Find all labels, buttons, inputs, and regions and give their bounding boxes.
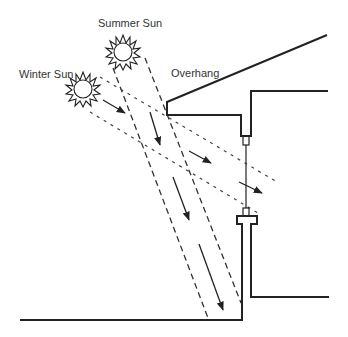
overhang-label: Overhang: [171, 67, 219, 79]
summer-arrow-1: [150, 112, 160, 145]
summer-sun-icon: [106, 35, 140, 70]
window-sill-block: [243, 208, 249, 216]
summer-ray-left: [113, 68, 208, 318]
summer-arrow-3: [199, 244, 223, 310]
window-head: [243, 136, 249, 145]
summer-arrow-2: [173, 177, 189, 220]
winter-arrow-2: [189, 151, 211, 163]
winter-sun-label: Winter Sun: [19, 68, 73, 80]
passive-solar-diagram: Summer Sun Winter Sun Overhang: [0, 0, 348, 337]
summer-sun-label: Summer Sun: [98, 17, 162, 29]
roof-overhang: [167, 35, 328, 136]
winter-arrow-3: [239, 182, 262, 193]
winter-ray-lower: [90, 112, 258, 213]
winter-arrow-1: [103, 100, 125, 113]
summer-ray-right: [145, 58, 241, 303]
